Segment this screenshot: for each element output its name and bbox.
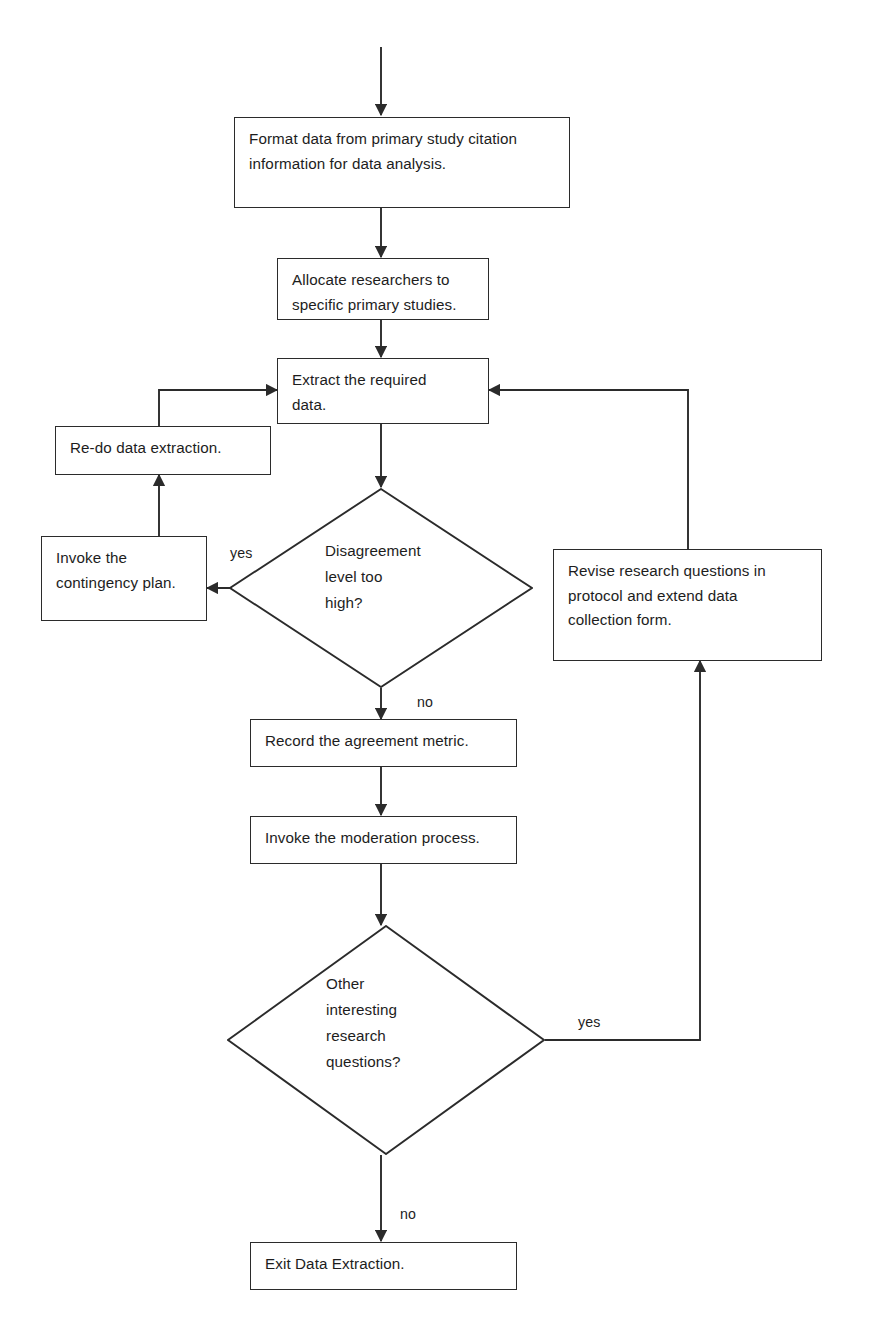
node-record-agreement-label: Record the agreement metric. [265, 729, 469, 754]
node-record-agreement[interactable]: Record the agreement metric. [250, 719, 517, 767]
edge-label-yes-disagreement: yes [230, 545, 252, 561]
edge-label-no-other-questions: no [400, 1206, 416, 1222]
node-revise-questions[interactable]: Revise research questions in protocol an… [553, 549, 822, 661]
edge-label-yes-other-questions: yes [578, 1014, 600, 1030]
node-allocate-researchers-label: Allocate researchers to specific primary… [292, 268, 457, 317]
node-redo-extraction-label: Re-do data extraction. [70, 436, 222, 461]
node-format-data-label: Format data from primary study citation … [249, 127, 517, 176]
edge-label-no-disagreement: no [417, 694, 433, 710]
node-exit-extraction-label: Exit Data Extraction. [265, 1252, 405, 1277]
node-revise-questions-label: Revise research questions in protocol an… [568, 559, 766, 633]
node-redo-extraction[interactable]: Re-do data extraction. [55, 426, 271, 475]
connector-other-questions-yes-to-revise [545, 661, 700, 1040]
node-disagreement-level-label: Disagreement level too high? [325, 538, 421, 616]
flowchart-canvas: Format data from primary study citation … [0, 0, 881, 1332]
node-moderation-process-label: Invoke the moderation process. [265, 826, 480, 851]
node-exit-extraction[interactable]: Exit Data Extraction. [250, 1242, 517, 1290]
node-extract-data-label: Extract the required data. [292, 368, 427, 417]
node-format-data[interactable]: Format data from primary study citation … [234, 117, 570, 208]
node-moderation-process[interactable]: Invoke the moderation process. [250, 816, 517, 864]
node-contingency-plan-label: Invoke the contingency plan. [56, 546, 176, 595]
node-disagreement-level[interactable]: Disagreement level too high? [229, 488, 533, 688]
node-allocate-researchers[interactable]: Allocate researchers to specific primary… [277, 258, 489, 320]
connector-redo-to-extract [159, 390, 277, 426]
node-other-questions[interactable]: Other interesting research questions? [227, 925, 545, 1155]
node-contingency-plan[interactable]: Invoke the contingency plan. [41, 536, 207, 621]
node-other-questions-label: Other interesting research questions? [326, 971, 400, 1076]
node-extract-data[interactable]: Extract the required data. [277, 358, 489, 424]
